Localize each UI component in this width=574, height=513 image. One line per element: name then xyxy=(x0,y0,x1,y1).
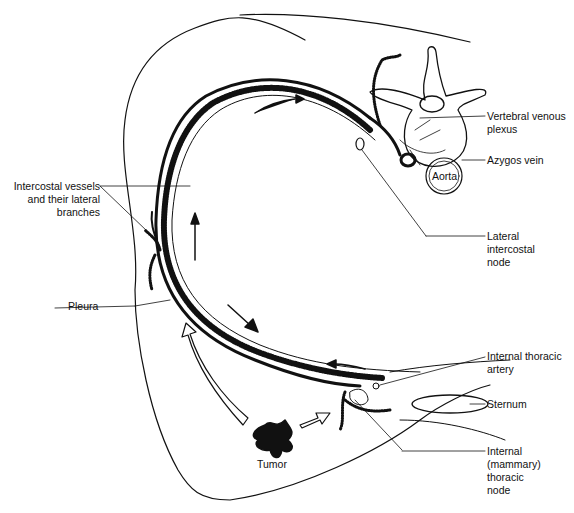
tumor-arrow-medial xyxy=(300,413,330,428)
label-line: node xyxy=(487,256,535,269)
vertebra xyxy=(370,47,486,167)
label-internal-thoracic-artery: Internal thoracic artery xyxy=(487,350,562,376)
azygos-vein xyxy=(401,154,415,166)
label-vertebral-venous-plexus: Vertebral venous plexus xyxy=(487,110,566,136)
inner-arc xyxy=(172,95,420,372)
label-pleura: Pleura xyxy=(68,300,98,313)
label-internal-mammary-node: Internal (mammary) thoracic node xyxy=(487,445,541,497)
label-aorta: Aorta xyxy=(432,170,457,183)
label-line: Lateral xyxy=(487,230,535,243)
label-tumor: Tumor xyxy=(257,458,287,471)
internal-mammary-node xyxy=(350,389,368,405)
label-intercostal-vessels: Intercostal vessels and their lateral br… xyxy=(8,180,100,219)
flow-arrow-anterior xyxy=(335,364,365,369)
flow-arrow-top xyxy=(255,99,295,113)
label-line: Intercostal vessels xyxy=(8,180,100,193)
flow-arrow-lower xyxy=(228,305,250,325)
label-azygos-vein: Azygos vein xyxy=(487,154,544,167)
label-line: artery xyxy=(487,363,562,376)
back-outline xyxy=(240,14,470,42)
label-line: node xyxy=(487,484,541,497)
label-lateral-intercostal-node: Lateral intercostal node xyxy=(487,230,535,269)
label-line: thoracic xyxy=(487,471,541,484)
label-line: intercostal xyxy=(487,243,535,256)
tumor-mass xyxy=(253,420,292,458)
lateral-intercostal-node xyxy=(356,138,364,150)
label-line: and their lateral xyxy=(8,193,100,206)
label-line: Internal thoracic xyxy=(487,350,562,363)
label-sternum: Sternum xyxy=(487,398,527,411)
label-line: Internal xyxy=(487,445,541,458)
label-line: branches xyxy=(8,206,100,219)
leader-lines xyxy=(55,116,485,451)
posterior-vein xyxy=(370,118,400,155)
label-line: (mammary) xyxy=(487,458,541,471)
label-line: plexus xyxy=(487,123,566,136)
intercostal-vessel-band xyxy=(164,88,382,378)
label-line: Vertebral venous xyxy=(487,110,566,123)
internal-thoracic-artery xyxy=(373,383,379,389)
